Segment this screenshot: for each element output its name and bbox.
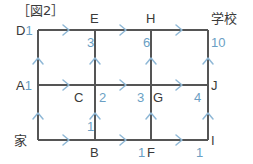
node-g-count: 3 bbox=[137, 91, 144, 104]
node-f-count: 1 bbox=[138, 146, 145, 159]
node-a-count: 1 bbox=[25, 78, 32, 93]
node-b-label: B bbox=[90, 146, 99, 159]
node-d-label: D bbox=[16, 23, 25, 38]
node-i-label: I bbox=[211, 134, 215, 147]
node-i-count: 1 bbox=[196, 146, 203, 159]
node-d: D1 bbox=[16, 24, 33, 37]
node-h-count: 6 bbox=[143, 36, 150, 49]
node-c-count: 2 bbox=[99, 91, 106, 104]
figure-container: ［図2］ bbox=[0, 0, 253, 164]
node-e-count: 3 bbox=[87, 36, 94, 49]
node-school-label: 学校 bbox=[211, 12, 237, 25]
node-c-label: C bbox=[74, 91, 83, 104]
node-e-label: E bbox=[90, 12, 99, 25]
node-g-label: G bbox=[153, 91, 163, 104]
node-a-label: A bbox=[16, 78, 25, 93]
node-f-label: F bbox=[147, 146, 155, 159]
node-school-count: 10 bbox=[211, 36, 225, 49]
node-b-count: 1 bbox=[87, 120, 94, 133]
node-a: A1 bbox=[16, 79, 32, 92]
node-home-label: 家 bbox=[14, 134, 27, 147]
node-h-label: H bbox=[146, 12, 155, 25]
node-j-count: 4 bbox=[194, 91, 201, 104]
node-d-count: 1 bbox=[25, 23, 32, 38]
node-j-label: J bbox=[211, 79, 218, 92]
